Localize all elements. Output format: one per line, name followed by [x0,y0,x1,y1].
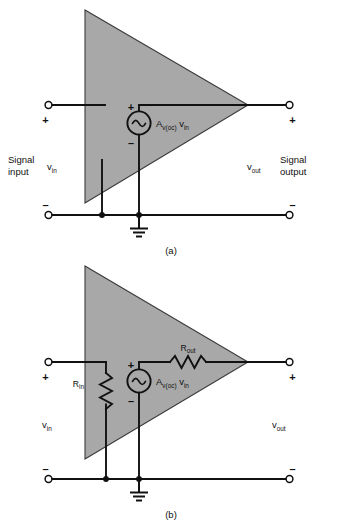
signal-output-line1: Signal [280,154,306,165]
input-plus-sign-a: + [42,114,48,126]
output-minus-sign-a: – [289,199,295,211]
input-minus-sign-b: – [42,463,48,475]
signal-output-line2: output [280,166,307,177]
v-in-label-b: vin [42,419,52,432]
output-plus-sign-b: + [289,371,295,383]
input-plus-sign-b: + [42,371,48,383]
output-plus-sign-a: + [289,114,295,126]
signal-input-line1: Signal [8,154,34,165]
v-out-label-b: vout [272,419,286,432]
source-plus-sign-a: + [128,101,134,113]
output-minus-terminal-a [286,212,293,219]
input-terminal-a [45,102,52,109]
caption-b: (b) [165,509,177,520]
output-terminal-a [286,102,293,109]
junction-dot-left-a [99,212,105,218]
output-minus-sign-b: – [289,463,295,475]
diagram-b: + – + – + – Rin Rout Av(oc) vin vin vout… [0,260,342,527]
input-terminal-b [45,359,52,366]
signal-input-line2: input [8,166,29,177]
v-out-label-a: vout [247,161,261,174]
source-minus-sign-a: – [128,137,134,149]
output-minus-terminal-b [286,476,293,483]
source-plus-sign-b: + [128,359,134,371]
input-minus-terminal-a [45,212,52,219]
output-terminal-b [286,359,293,366]
amplifier-triangle-a [85,10,248,203]
input-minus-sign-a: – [42,199,48,211]
diagram-a: + – + – + – Av(oc) vin Signal input vin … [0,0,342,264]
figure-root: + – + – + – Av(oc) vin Signal input vin … [0,0,342,527]
v-in-label-a: vin [47,161,57,174]
source-minus-sign-b: – [128,395,134,407]
caption-a: (a) [165,245,177,256]
resistor-in-label-b: Rin [73,379,85,390]
input-minus-terminal-b [45,476,52,483]
junction-dot-left-b [103,476,109,482]
